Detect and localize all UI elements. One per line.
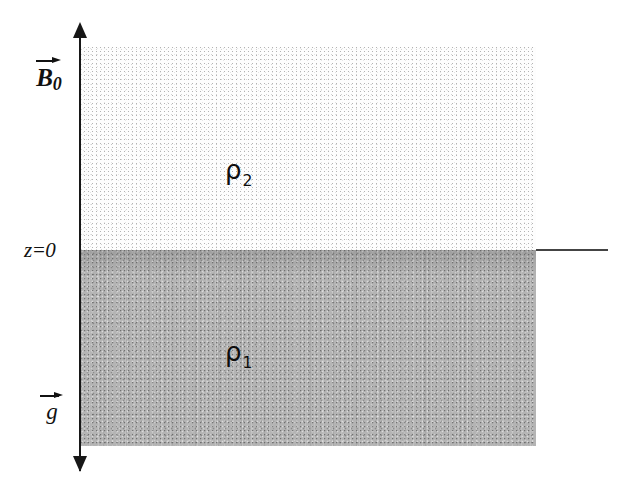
- magnetic-field-vector-label: B0: [36, 57, 62, 93]
- upper-fluid-region: [80, 47, 536, 250]
- interface-line: [536, 249, 608, 251]
- lower-density-label: ρ1: [225, 339, 252, 371]
- upper-density-subscript: 2: [242, 172, 253, 190]
- magnetic-field-letter: B: [36, 64, 53, 91]
- gravity-vector-label: g: [40, 392, 64, 423]
- interface-label: z=0: [24, 240, 55, 261]
- magnetic-field-symbol: B0: [36, 65, 62, 93]
- z-axis-up-arrowhead-icon: [73, 22, 87, 38]
- z-axis-down-arrowhead-icon: [73, 456, 87, 472]
- upper-density-label: ρ2: [225, 157, 252, 189]
- rho-symbol: ρ: [225, 155, 242, 185]
- fluid-interface-figure: B0 g z=0 ρ2 ρ1: [0, 0, 633, 502]
- vector-arrow-icon: [40, 392, 64, 399]
- lower-fluid-region: [80, 250, 536, 446]
- vector-arrow-icon: [36, 57, 62, 64]
- rho-symbol: ρ: [225, 337, 242, 367]
- z-axis-line: [79, 33, 81, 471]
- gravity-symbol: g: [46, 400, 58, 423]
- magnetic-field-subscript: 0: [53, 74, 62, 94]
- lower-density-subscript: 1: [242, 354, 253, 372]
